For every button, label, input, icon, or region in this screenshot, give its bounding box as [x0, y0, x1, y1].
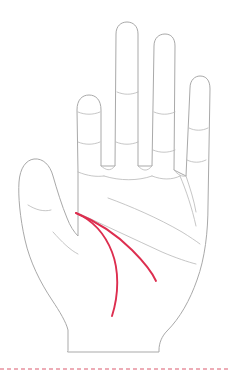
ring-crease-upper: [154, 112, 175, 114]
dashed-divider: [0, 368, 230, 370]
little-finger-creases: [187, 128, 208, 162]
base-crease-little: [152, 176, 180, 179]
hand-diagram: [0, 0, 230, 377]
thenar-edge: [53, 232, 78, 254]
thenar-line: [53, 232, 78, 254]
thumb-crease: [28, 205, 51, 211]
index-crease-lower: [78, 142, 100, 144]
palm-reading-figure: [0, 0, 230, 377]
middle-crease-upper: [117, 92, 138, 94]
web-index-middle: [101, 166, 115, 170]
ring-crease-lower: [153, 150, 175, 152]
index-finger-creases: [78, 112, 100, 144]
ring-finger-creases: [153, 112, 175, 152]
base-crease-middle-ring: [104, 176, 152, 180]
little-crease-lower: [187, 160, 206, 162]
hand-outline: [19, 22, 210, 352]
palm-lines-gray: [80, 198, 200, 264]
palm-lines-highlighted: [76, 213, 156, 316]
finger-base-creases: [78, 166, 196, 226]
heart-line: [108, 198, 200, 244]
thumb-creases: [28, 205, 51, 211]
index-crease-upper: [78, 112, 100, 114]
middle-finger-creases: [116, 92, 138, 144]
web-middle-ring: [138, 166, 152, 170]
little-crease-upper: [189, 128, 208, 130]
middle-crease-lower: [116, 142, 138, 144]
base-crease-index: [78, 172, 104, 176]
